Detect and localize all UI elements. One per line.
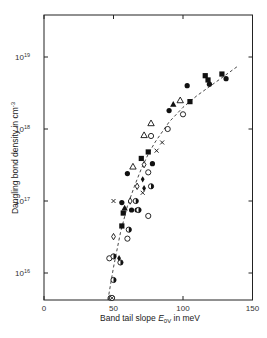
open-circle-point — [180, 112, 185, 117]
filled-square-point — [146, 149, 151, 154]
open-circle-point — [148, 133, 153, 138]
open-triangle-point — [177, 97, 183, 103]
filled-circle-point — [167, 108, 172, 113]
x-tick-label: 50 — [109, 304, 118, 313]
open-triangle-point — [148, 120, 154, 126]
filled-circle-point — [223, 76, 228, 81]
half-filled-circle-point — [111, 277, 116, 282]
half-filled-circle-point — [111, 254, 116, 259]
filled-square-point — [219, 71, 224, 76]
half-filled-circle-point — [118, 260, 123, 265]
x-axis-title: Band tail slope E0V in meV — [100, 313, 200, 324]
open-triangle-point — [141, 132, 147, 138]
open-circle-point — [146, 170, 151, 175]
filled-triangle-point — [170, 101, 176, 107]
dashed-fit-curve — [108, 66, 239, 300]
y-axis-title: Dangling bond density in cm-3 — [10, 101, 20, 214]
x-tick-labels: 050100150 — [42, 304, 260, 313]
filled-circle-point — [150, 161, 155, 166]
filled-square-point — [187, 99, 192, 104]
filled-circle-point — [125, 171, 130, 176]
y-tick-label: 1016 — [15, 268, 30, 278]
filled-square-point — [121, 210, 126, 215]
cross-point — [112, 199, 116, 203]
filled-circle-point — [119, 200, 124, 205]
plot-frame — [44, 15, 253, 300]
filled-diamond-point — [141, 176, 145, 182]
filled-circle-point — [185, 83, 190, 88]
data-points — [107, 71, 229, 300]
open-triangle-point — [130, 163, 136, 169]
filled-square-point — [139, 156, 144, 161]
half-filled-circle-point — [136, 207, 141, 212]
open-circle-point — [125, 236, 130, 241]
filled-square-point — [205, 77, 210, 82]
filled-square-point — [119, 223, 124, 228]
filled-diamond-point — [142, 185, 146, 191]
x-tick-label: 100 — [176, 304, 190, 313]
filled-circle-point — [129, 207, 134, 212]
open-diamond-point — [142, 161, 146, 167]
open-diamond-point — [112, 233, 116, 239]
y-tick-label: 1019 — [15, 52, 30, 62]
open-circle-point — [165, 126, 170, 131]
hatched-circle-point — [110, 295, 115, 300]
open-diamond-point — [135, 183, 139, 189]
open-circle-point — [146, 213, 151, 218]
x-tick-label: 0 — [42, 304, 47, 313]
scatter-chart: 050100150 1016101710181019 Band tail slo… — [0, 0, 267, 338]
half-filled-circle-point — [126, 227, 131, 232]
x-tick-label: 150 — [246, 304, 260, 313]
cross-point — [155, 149, 159, 153]
half-filled-circle-point — [148, 184, 153, 189]
cross-point — [160, 140, 164, 144]
axis-ticks — [44, 15, 253, 300]
half-filled-circle-point — [133, 198, 138, 203]
